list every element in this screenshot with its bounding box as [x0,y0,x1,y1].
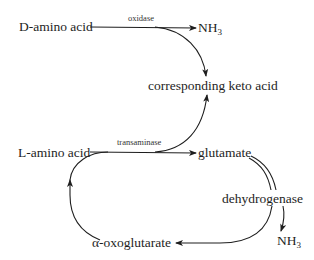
nh3-bottom-base: NH [277,233,297,248]
amino-acid-metabolism-diagram: D-amino acid oxidase NH3 corresponding k… [0,0,314,260]
d-prefix: D [19,19,29,34]
l-prefix: L [18,145,26,160]
node-l-amino-acid: L-amino acid [18,146,90,160]
d-amino-acid-label: -amino acid [29,19,93,34]
arrow-glutamate-to-dehydrogenase [249,158,271,190]
node-d-amino-acid: D-amino acid [19,20,93,34]
nh3-bottom-subscript: 3 [297,240,302,250]
node-nh3-top: NH3 [198,21,222,37]
nh3-top-subscript: 3 [218,27,223,37]
arrow-dehydrogenase-to-nh3 [281,206,284,231]
l-amino-acid-label: -amino acid [26,145,90,160]
arrow-dehydrogenase-to-oxoglutarate [176,206,272,243]
node-corresponding-keto-acid: corresponding keto acid [148,79,278,93]
enzyme-oxidase: oxidase [128,14,154,23]
arrow-d-amino-to-nh3 [90,27,196,28]
node-alpha-oxoglutarate: α-oxoglutarate [92,236,171,250]
node-nh3-bottom: NH3 [277,234,301,250]
diagram-arrows [0,0,314,260]
node-dehydrogenase: dehydrogenase [222,192,303,206]
arrow-transaminase-to-keto-acid [155,95,207,152]
enzyme-transaminase: transaminase [117,138,161,147]
arrow-oxoglutarate-cycle [70,180,100,240]
nh3-top-base: NH [198,20,218,35]
node-glutamate: glutamate [198,146,251,160]
